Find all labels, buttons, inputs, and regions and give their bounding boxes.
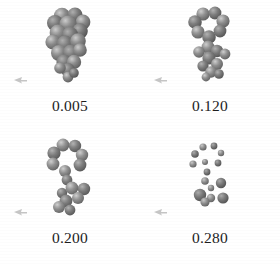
molecule-panel-grid: 0.005 [0,0,280,264]
molecule-panel-0[interactable]: 0.005 [0,0,140,132]
space-filling-model-icon [38,6,102,86]
figure-root: 0.005 [0,0,280,264]
ball-model-icon [181,138,239,218]
panel-value-label: 0.200 [0,229,140,247]
panel-value-label: 0.280 [140,229,280,247]
molecule-panel-2[interactable]: 0.200 [0,132,140,264]
molecule-render-2 [0,136,140,220]
molecule-render-0 [0,4,140,88]
panel-value-label: 0.005 [0,97,140,115]
space-filling-model-icon [39,138,101,218]
space-filling-model-icon [181,6,239,86]
molecule-panel-1[interactable]: 0.120 [140,0,280,132]
molecule-render-3 [140,136,280,220]
molecule-panel-3[interactable]: 0.280 [140,132,280,264]
panel-value-label: 0.120 [140,97,280,115]
molecule-render-1 [140,4,280,88]
